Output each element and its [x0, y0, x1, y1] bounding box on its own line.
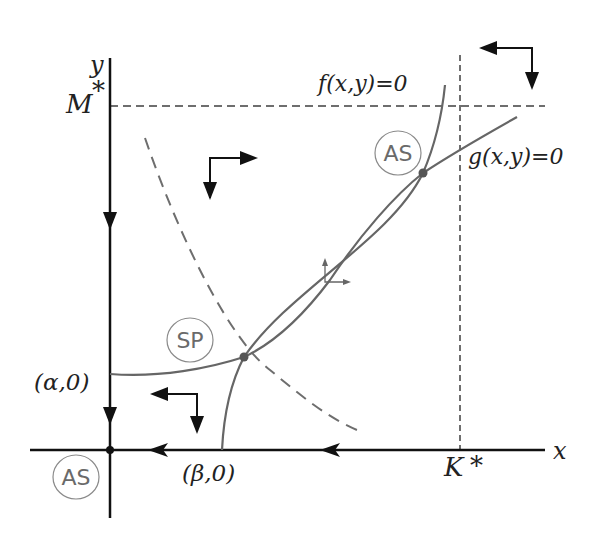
stable-equilibrium-point: [419, 169, 428, 178]
x-axis-label: x: [553, 437, 567, 465]
y-axis-down-arrow-icon: [103, 212, 117, 230]
as-badge-origin: AS: [53, 455, 99, 499]
f-curve-label: f(x,y)=0: [316, 71, 408, 96]
g-curve-label: g(x,y)=0: [468, 144, 564, 169]
as-badge-label: AS: [383, 141, 412, 166]
separatrix-curve: [145, 138, 362, 432]
saddle-point: [240, 353, 249, 362]
as-badge-interior: AS: [375, 131, 421, 175]
sp-badge-label: SP: [176, 328, 203, 353]
svg-text:*: *: [92, 76, 105, 106]
svg-text:K: K: [443, 452, 465, 482]
beta-point-label: (β,0): [182, 460, 235, 486]
direction-arrow-upper-left: [203, 151, 258, 200]
as-badge-label: AS: [61, 465, 90, 490]
svg-text:*: *: [470, 451, 483, 481]
phase-plane-diagram: AS SP AS y x M * K * f(x,y)=0 g(x,y)=0 (…: [0, 0, 614, 536]
k-star-label: K *: [443, 451, 483, 482]
svg-text:M: M: [65, 89, 94, 119]
m-star-label: M *: [65, 76, 105, 119]
y-axis-down-arrow-icon: [103, 407, 117, 425]
direction-arrow-lower-left: [150, 387, 204, 434]
origin-point: [106, 446, 114, 454]
y-axis-label: y: [89, 51, 104, 79]
sp-badge: SP: [167, 318, 213, 362]
alpha-point-label: (α,0): [34, 369, 89, 395]
